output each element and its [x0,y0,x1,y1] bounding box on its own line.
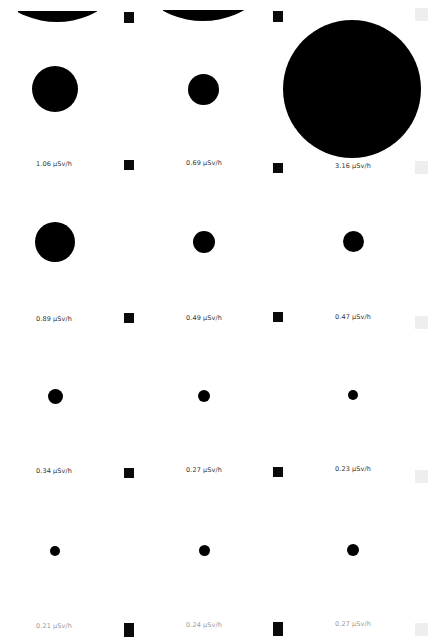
dose-rate-label: 0.47 µSv/h [335,313,371,321]
edge-tab [415,161,428,174]
dose-rate-label: 1.06 µSv/h [36,160,72,168]
dose-dot [193,231,215,253]
registration-mark [273,467,283,477]
registration-mark [273,163,283,173]
dose-rate-sheet: 1.06 µSv/h0.69 µSv/h3.16 µSv/h0.89 µSv/h… [0,0,428,644]
dose-rate-label: 0.27 µSv/h [186,466,222,474]
dose-dot [50,546,60,556]
partial-dot [163,10,244,22]
dose-dot [32,66,78,112]
edge-tab [415,470,428,483]
dose-dot [198,390,210,402]
dose-rate-label: 0.49 µSv/h [186,314,222,322]
registration-mark [273,312,283,322]
dose-rate-label: 0.23 µSv/h [335,465,371,473]
dose-rate-label: 0.24 µSv/h [186,621,222,629]
registration-mark [124,160,134,170]
edge-tab [415,316,428,329]
dose-dot [343,231,364,252]
registration-mark [273,11,283,22]
registration-mark [273,622,283,636]
dose-dot [348,390,358,400]
edge-tab [415,8,428,21]
dose-rate-label: 0.89 µSv/h [36,315,72,323]
edge-tab [415,623,428,636]
partial-dot [18,11,97,23]
dose-rate-label: 0.21 µSv/h [36,622,72,630]
dose-rate-label: 0.34 µSv/h [36,467,72,475]
dot-shape [18,11,97,22]
registration-mark [124,12,134,23]
dose-dot [48,389,63,404]
dose-dot [199,545,210,556]
registration-mark [124,468,134,478]
dose-dot [283,20,421,158]
dose-rate-label: 0.27 µSv/h [335,620,371,628]
dose-dot [35,222,75,262]
registration-mark [124,313,134,323]
dot-shape [163,10,244,21]
dose-rate-label: 3.16 µSv/h [335,162,371,170]
dose-dot [347,544,359,556]
registration-mark [124,623,134,637]
dose-dot [188,74,219,105]
dose-rate-label: 0.69 µSv/h [186,159,222,167]
